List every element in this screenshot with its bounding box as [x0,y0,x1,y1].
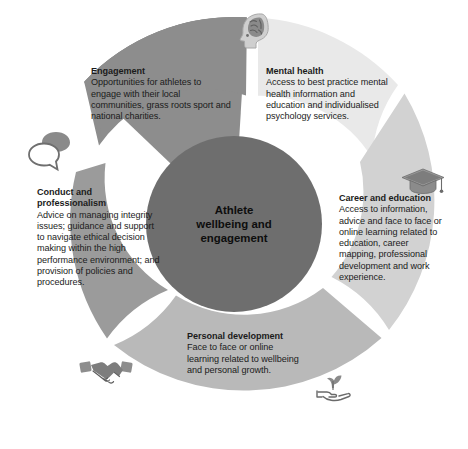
segment-label-personal-development: Personal development Face to face or onl… [187,331,304,376]
hand-plant-icon [310,364,358,410]
segment-title-conduct-and-professionalism: Conduct and professionalism [37,187,163,210]
hub-label-line1: Athlete [215,204,254,216]
segment-body-career-and-education: Access to information, advice and face t… [339,204,443,283]
hub-label-line3: engagement [200,232,267,244]
segment-title-personal-development: Personal development [187,331,304,342]
segment-body-personal-development: Face to face or online learning related … [187,342,304,376]
segment-label-mental-health: Mental health Access to best practice me… [266,66,392,122]
brain-head-icon [232,8,276,52]
segment-body-engagement: Opportunities for athletes to engage wit… [91,77,233,122]
segment-title-engagement: Engagement [91,66,233,77]
segment-title-mental-health: Mental health [266,66,392,77]
handshake-icon [78,352,134,392]
speech-bubbles-icon [26,126,78,174]
hub-label-line2: wellbeing and [196,218,271,230]
segment-label-conduct-and-professionalism: Conduct and professionalism Advice on ma… [37,187,163,289]
hub-label: Athlete wellbeing and engagement [169,203,299,246]
graduation-cap-icon [400,160,448,204]
segment-body-mental-health: Access to best practice mental health in… [266,77,392,122]
athlete-wellbeing-wheel-diagram: Engagement Opportunities for athletes to… [0,0,468,449]
segment-label-career-and-education: Career and education Access to informati… [339,193,443,283]
segment-body-conduct-and-professionalism: Advice on managing integrity issues; gui… [37,210,163,289]
segment-label-engagement: Engagement Opportunities for athletes to… [91,66,233,122]
